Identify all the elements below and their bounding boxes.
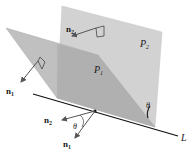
- origin-n2-label: n2: [44, 115, 52, 126]
- origin-n2-arrow: [62, 111, 95, 120]
- origin-theta-label: θ: [73, 122, 77, 131]
- planes-diagram: L n2 P2 n1 P1 θ n2 θ n1: [0, 0, 191, 160]
- origin-n1-label: n1: [63, 139, 71, 150]
- origin-angle-arc: [80, 115, 84, 127]
- normal-n1-arrow: [21, 61, 38, 82]
- normal-n1-label: n1: [6, 86, 14, 97]
- origin-n1-arrow: [75, 111, 95, 138]
- dihedral-theta-label: θ: [146, 101, 150, 110]
- line-l-label: L: [180, 132, 187, 143]
